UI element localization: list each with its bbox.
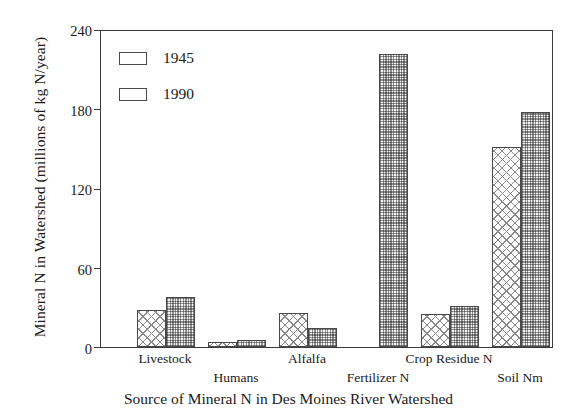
bar-livestock-1990 xyxy=(166,297,195,347)
y-tick-label-240: 240 xyxy=(32,24,92,39)
legend-item-1945: 1945 xyxy=(119,49,194,67)
legend-item-1990: 1990 xyxy=(119,85,194,103)
bar-humans-1990 xyxy=(237,340,266,347)
bar-chart-figure: Mineral N in Watershed (millions of kg N… xyxy=(0,0,577,410)
bar-livestock-1945 xyxy=(137,310,166,347)
legend-label-1990: 1990 xyxy=(163,86,194,102)
x-tick-label-humans: Humans xyxy=(214,371,259,385)
bar-fertilizer-n-1990 xyxy=(379,54,408,347)
legend-swatch-1990-icon xyxy=(119,88,147,101)
x-tick-label-livestock: Livestock xyxy=(138,352,191,366)
bar-humans-1945 xyxy=(208,342,237,347)
x-axis-title: Source of Mineral N in Des Moines River … xyxy=(0,390,577,408)
bar-soil-nm-1945 xyxy=(492,147,521,347)
bar-crop-residue-n-1990 xyxy=(450,306,479,347)
legend-swatch-1945-icon xyxy=(119,52,147,65)
y-tick-label-120: 120 xyxy=(32,183,92,198)
plot-area: 1945 1990 xyxy=(100,30,553,348)
x-tick-label-soil-nm: Soil Nm xyxy=(497,371,542,385)
bar-alfalfa-1990 xyxy=(308,328,337,347)
y-tick-label-0: 0 xyxy=(32,342,92,357)
x-tick-label-crop-residue-n: Crop Residue N xyxy=(406,352,493,366)
y-tick-label-60: 60 xyxy=(32,263,92,278)
legend-label-1945: 1945 xyxy=(163,50,194,66)
x-tick-label-alfalfa: Alfalfa xyxy=(288,352,326,366)
bar-soil-nm-1990 xyxy=(521,112,550,347)
bar-alfalfa-1945 xyxy=(279,313,308,348)
legend: 1945 1990 xyxy=(119,49,194,121)
bar-crop-residue-n-1945 xyxy=(421,314,450,347)
y-tick-label-180: 180 xyxy=(32,104,92,119)
x-tick-label-fertilizer-n: Fertilizer N xyxy=(347,371,410,385)
